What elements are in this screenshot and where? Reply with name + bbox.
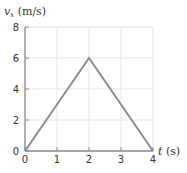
y-tick-label: 6 bbox=[13, 53, 19, 64]
x-tick-label: 1 bbox=[54, 154, 60, 165]
y-tick-labels: 02468 bbox=[13, 22, 19, 157]
y-tick-label: 0 bbox=[13, 146, 19, 157]
x-tick-label: 0 bbox=[22, 154, 28, 165]
x-tick-labels: 01234 bbox=[22, 154, 156, 165]
x-tick-label: 2 bbox=[86, 154, 92, 165]
grid-lines bbox=[25, 27, 153, 151]
x-tick-label: 3 bbox=[118, 154, 124, 165]
y-axis-label: vx (m/s) bbox=[4, 5, 46, 19]
x-axis-label: t (s) bbox=[158, 145, 180, 158]
velocity-time-chart: 02468 01234 vx (m/s) t (s) bbox=[0, 0, 187, 173]
x-tick-label: 4 bbox=[150, 154, 156, 165]
y-tick-label: 2 bbox=[13, 115, 19, 126]
y-tick-label: 8 bbox=[13, 22, 19, 33]
y-tick-label: 4 bbox=[13, 84, 19, 95]
